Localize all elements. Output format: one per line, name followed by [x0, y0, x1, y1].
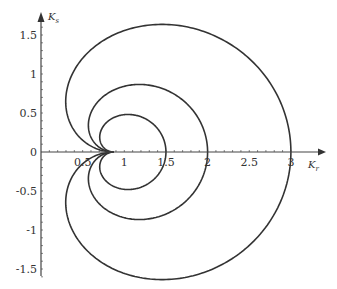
x-axis-label-sub: r	[315, 165, 319, 173]
y-tick-label: -1	[26, 224, 37, 237]
y-tick-label: 0	[30, 146, 37, 159]
x-axis-arrow-icon	[318, 149, 326, 156]
x-tick-label: 2.5	[241, 156, 259, 169]
x-tick-label: 1	[121, 156, 128, 169]
y-axis-label: Ks	[47, 11, 59, 25]
x-tick-label: 0.5	[74, 156, 92, 169]
y-tick-label: -1.5	[16, 263, 37, 276]
y-tick-label: -0.5	[16, 185, 37, 198]
y-tick-label: 1	[30, 68, 37, 81]
polar-curve-chart: 0.511.522.531.510.50-0.5-1-1.5 Kr Ks	[0, 0, 337, 289]
y-tick-label: 1.5	[20, 29, 38, 42]
y-axis-label-sub: s	[55, 17, 59, 25]
y-axis-arrow-icon	[38, 12, 45, 22]
y-tick-label: 0.5	[20, 107, 38, 120]
x-axis-label: Kr	[307, 159, 319, 173]
